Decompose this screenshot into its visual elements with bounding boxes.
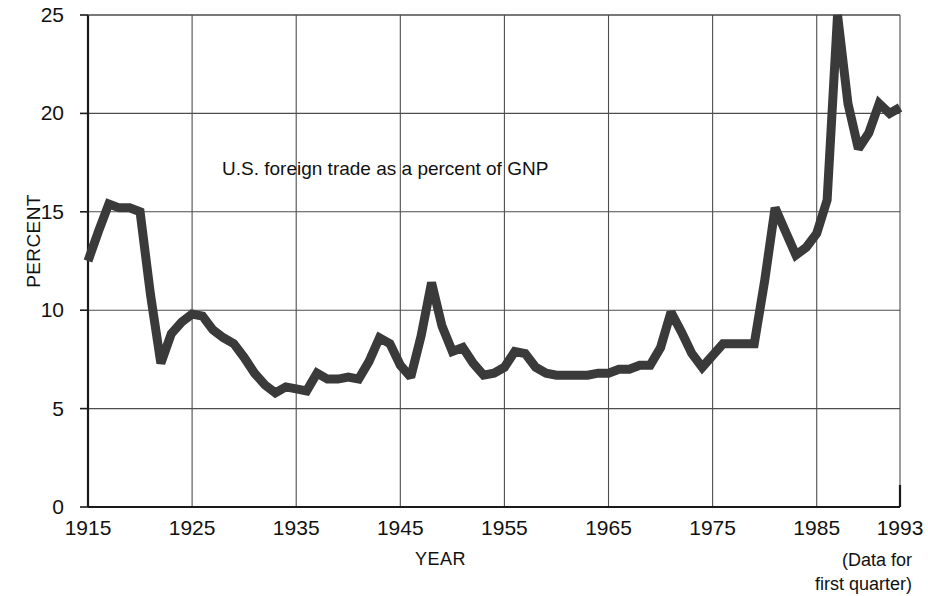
- y-tick-label: 0: [12, 496, 64, 517]
- trade-percent-gnp-line: [88, 15, 900, 393]
- axis-lines: [88, 15, 900, 507]
- x-tick-label: 1965: [569, 517, 649, 538]
- grid-lines: [88, 15, 900, 507]
- x-tick-label: 1993: [860, 517, 928, 538]
- x-axis-title: YEAR: [415, 549, 466, 570]
- x-tick-label: 1955: [464, 517, 544, 538]
- x-tick-label: 1925: [152, 517, 232, 538]
- y-tick-label: 25: [12, 4, 64, 25]
- y-tick-label: 10: [12, 299, 64, 320]
- footnote-line-1: (Data for: [742, 548, 912, 572]
- y-tick-label: 15: [12, 201, 64, 222]
- x-tick-label: 1915: [48, 517, 128, 538]
- x-tick-label: 1975: [673, 517, 753, 538]
- y-tick-label: 5: [12, 398, 64, 419]
- data-series: [88, 15, 900, 393]
- chart-annotation: U.S. foreign trade as a percent of GNP: [222, 158, 548, 180]
- y-tick-label: 20: [12, 102, 64, 123]
- axis-tick-marks: [80, 15, 900, 507]
- x-tick-label: 1985: [777, 517, 857, 538]
- chart-footnote: (Data for first quarter): [742, 548, 912, 596]
- footnote-line-2: first quarter): [742, 572, 912, 596]
- x-tick-label: 1935: [256, 517, 336, 538]
- x-tick-label: 1945: [360, 517, 440, 538]
- y-axis-title: PERCENT: [23, 161, 45, 321]
